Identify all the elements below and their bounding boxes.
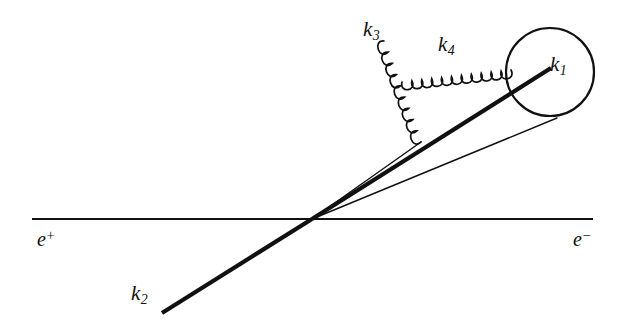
- gluon-k4-spiral: [402, 70, 512, 90]
- label-k3: k3: [363, 19, 380, 43]
- diagram-canvas: [0, 0, 631, 329]
- label-k2-symbol: k: [131, 281, 140, 305]
- label-k1-subscript: 1: [560, 63, 567, 78]
- label-k1: k1: [550, 54, 567, 78]
- label-k4-symbol: k: [438, 32, 447, 56]
- gluon-k3-spiral: [378, 41, 421, 144]
- label-e-plus: e+: [37, 228, 55, 249]
- label-k3-symbol: k: [363, 17, 372, 41]
- feynman-diagram-figure: k1 k2 k3 k4 e+ e−: [0, 0, 631, 329]
- label-e-plus-symbol: e: [37, 228, 46, 250]
- label-k1-symbol: k: [550, 52, 559, 76]
- label-k2-subscript: 2: [141, 292, 148, 307]
- thin-line-to-blob: [312, 118, 557, 219]
- label-e-minus: e−: [573, 228, 591, 249]
- label-k2: k2: [131, 283, 148, 307]
- label-e-minus-symbol: e: [573, 228, 582, 250]
- label-k4: k4: [438, 34, 455, 58]
- label-k3-subscript: 3: [373, 28, 380, 43]
- k2-momentum-line: [162, 219, 312, 313]
- label-e-plus-superscript: +: [46, 227, 54, 243]
- label-e-minus-superscript: −: [582, 227, 590, 243]
- line-layer: [32, 28, 594, 313]
- label-k4-subscript: 4: [448, 43, 455, 58]
- k1-momentum-line: [312, 68, 551, 219]
